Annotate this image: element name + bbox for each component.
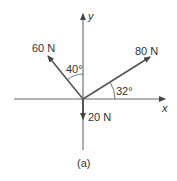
vector-diagram: y x 60 N 40° 80 N 32° 20 N (a): [0, 0, 177, 181]
x-axis-label: x: [161, 102, 168, 114]
label-20n: 20 N: [88, 111, 111, 123]
y-axis-label: y: [87, 10, 95, 22]
label-32deg: 32°: [116, 85, 133, 97]
label-40deg: 40°: [66, 63, 83, 75]
angle-arc-32: [110, 82, 115, 99]
label-60n: 60 N: [32, 42, 55, 54]
label-80n: 80 N: [135, 45, 158, 57]
caption: (a): [77, 157, 90, 169]
